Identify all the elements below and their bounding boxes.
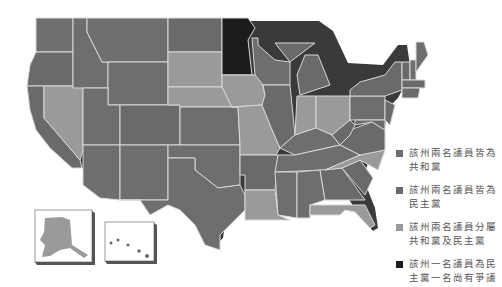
- state-nd: [168, 18, 222, 52]
- swatch-disputed: [396, 261, 403, 268]
- state-mt: [87, 18, 168, 62]
- state-wa: [36, 18, 73, 52]
- state-ne: [168, 87, 232, 107]
- state-ms: [275, 172, 297, 218]
- state-ar: [240, 155, 278, 190]
- legend-label: 該州兩名議員皆為共和黨: [409, 146, 497, 174]
- legend-item-democrat: 該州兩名議員皆為民主黨: [396, 183, 500, 211]
- state-ma: [402, 80, 425, 88]
- state-fl: [310, 205, 375, 228]
- swatch-split: [396, 224, 403, 231]
- state-ct-ri: [402, 88, 420, 98]
- legend-label: 該州兩名議員分屬共和黨及民主黨: [409, 220, 497, 248]
- state-or: [27, 52, 73, 86]
- legend-item-disputed: 該州一名議員為民主黨一名尚有爭議: [396, 257, 500, 285]
- state-pa: [350, 96, 385, 120]
- swatch-democrat: [396, 187, 403, 194]
- state-nj: [385, 100, 395, 125]
- state-wy: [108, 62, 168, 105]
- legend-item-republican: 該州兩名議員皆為共和黨: [396, 146, 500, 174]
- hawaii-inset: [105, 222, 157, 264]
- alaska-inset: [35, 210, 95, 265]
- legend: 該州兩名議員皆為共和黨 該州兩名議員皆為民主黨 該州兩名議員分屬共和黨及民主黨 …: [396, 146, 500, 287]
- state-co: [120, 105, 180, 145]
- legend-item-split: 該州兩名議員分屬共和黨及民主黨: [396, 220, 500, 248]
- state-az: [83, 145, 120, 200]
- legend-label: 該州一名議員為民主黨一名尚有爭議: [409, 257, 497, 285]
- state-sd: [168, 52, 222, 87]
- state-ks: [180, 107, 240, 145]
- state-nh: [410, 60, 416, 80]
- state-vt: [402, 62, 410, 80]
- state-nm: [120, 145, 168, 200]
- state-me: [416, 42, 428, 72]
- swatch-republican: [396, 150, 403, 157]
- legend-label: 該州兩名議員皆為民主黨: [409, 183, 497, 211]
